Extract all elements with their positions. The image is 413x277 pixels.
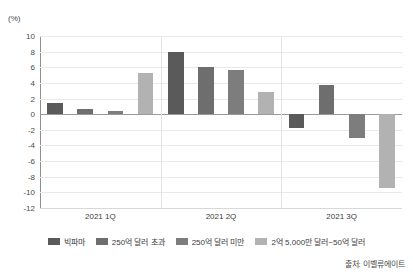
gridline [40,99,402,100]
bar-chart: (%) 1086420-2-4-6-8-10-12 2021 1Q2021 2Q… [0,0,413,277]
y-axis-tick-label: -6 [28,157,35,166]
bar [108,111,124,114]
y-axis-tick-label: -8 [28,172,35,181]
y-axis-tick-label: -10 [23,188,35,197]
legend-label: 2억 5,000만 달러~50억 달러 [271,236,365,247]
legend-swatch-icon [48,238,60,245]
y-axis-tick-label: 4 [31,78,35,87]
legend-item[interactable]: 250억 달러 미만 [176,236,245,247]
bar [349,114,365,137]
bar [47,103,63,114]
group-separator [161,36,162,208]
legend-swatch-icon [96,238,108,245]
gridline [40,67,402,68]
y-axis-tick-label: -2 [28,125,35,134]
y-axis-tick-label: 2 [31,94,35,103]
gridline [40,52,402,53]
y-axis-tick-label: 0 [31,110,35,119]
bar [258,92,274,115]
y-axis-line [40,36,41,208]
bar [138,73,154,114]
gridline [40,130,402,131]
x-axis-labels: 2021 1Q2021 2Q2021 3Q [40,210,402,226]
gridline [40,161,402,162]
x-axis-baseline [40,208,402,209]
gridline [40,83,402,84]
legend-swatch-icon [176,238,188,245]
zero-line [40,114,402,115]
legend-item[interactable]: 250억 달러 초과 [96,236,165,247]
y-axis-tick-label: -12 [23,204,35,213]
gridline [40,177,402,178]
x-axis-tick-label: 2021 3Q [326,212,357,221]
bar [228,70,244,115]
y-axis-tick-label: -4 [28,141,35,150]
bar [198,67,214,114]
legend-item[interactable]: 2억 5,000만 달러~50억 달러 [255,236,365,247]
x-axis-tick-label: 2021 2Q [206,212,237,221]
plot-area: 1086420-2-4-6-8-10-12 [40,36,402,208]
bar [289,114,305,128]
x-axis-tick-label: 2021 1Q [85,212,116,221]
group-separator [281,36,282,208]
gridline [40,36,402,37]
bar [319,85,335,114]
legend-item[interactable]: 빅파마 [48,236,85,247]
legend-label: 250억 달러 미만 [192,236,245,247]
gridline [40,192,402,193]
y-axis-tick-label: 8 [31,47,35,56]
y-axis-unit-label: (%) [8,14,20,23]
bar [168,52,184,114]
legend-swatch-icon [255,238,267,245]
chart-legend: 빅파마250억 달러 초과250억 달러 미만2억 5,000만 달러~50억 … [0,233,413,249]
y-axis-tick-label: 10 [26,32,35,41]
y-axis-tick-label: 6 [31,63,35,72]
gridline [40,145,402,146]
legend-label: 250억 달러 초과 [112,236,165,247]
bar [379,114,395,187]
bar [77,109,93,114]
legend-label: 빅파마 [64,236,85,247]
source-note: 출처: 이벨류에이트 [345,258,405,269]
